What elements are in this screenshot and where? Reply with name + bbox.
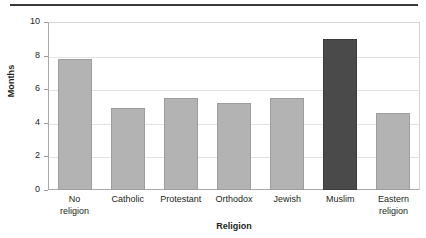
x-tick-label-line: religion <box>48 206 101 218</box>
x-axis-tick-labels: NoreligionCatholicProtestantOrthodoxJewi… <box>48 194 420 224</box>
bar-eastern-religion <box>376 113 410 190</box>
bar-orthodox <box>217 103 251 190</box>
x-tick-label-line: Muslim <box>314 194 367 206</box>
bar-catholic <box>111 108 145 190</box>
top-divider-rule <box>10 4 418 6</box>
bar-no-religion <box>58 59 92 190</box>
y-tick-label: 4 <box>14 118 40 127</box>
x-tick-label: Easternreligion <box>367 194 420 217</box>
y-tick-mark <box>44 190 48 191</box>
x-tick-label-line: Jewish <box>261 194 314 206</box>
x-tick-label-line: No <box>48 194 101 206</box>
bars-layer <box>48 22 420 190</box>
x-tick-label: Catholic <box>101 194 154 206</box>
x-tick-label-line: Orthodox <box>207 194 260 206</box>
x-tick-label-line: Protestant <box>154 194 207 206</box>
y-tick-label: 0 <box>14 185 40 194</box>
y-tick-label: 6 <box>14 84 40 93</box>
x-tick-label: Orthodox <box>207 194 260 206</box>
x-tick-label-line: religion <box>367 206 420 218</box>
x-tick-label-line: Catholic <box>101 194 154 206</box>
x-tick-label: Protestant <box>154 194 207 206</box>
y-tick-label: 8 <box>14 51 40 60</box>
bar-chart-figure: Months 0246810 NoreligionCatholicProtest… <box>0 0 426 238</box>
y-tick-label: 2 <box>14 151 40 160</box>
bar-muslim <box>323 39 357 190</box>
x-tick-label: Muslim <box>314 194 367 206</box>
bar-jewish <box>270 98 304 190</box>
x-tick-label-line: Eastern <box>367 194 420 206</box>
x-tick-label: Noreligion <box>48 194 101 217</box>
y-tick-label: 10 <box>14 17 40 26</box>
x-axis-title: Religion <box>48 221 420 231</box>
bar-protestant <box>164 98 198 190</box>
x-tick-label: Jewish <box>261 194 314 206</box>
